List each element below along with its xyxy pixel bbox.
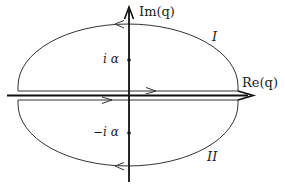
real-axis-label: Re(q) [242,76,278,89]
imaginary-axis-label: Im(q) [139,5,175,18]
region-label-upper: I [212,30,217,43]
upper-contour [18,24,238,91]
tick-i-alpha [127,58,131,62]
contour-diagram: Im(q) Re(q) i α −i α I II [0,0,285,192]
real-axis [7,91,253,100]
tick-minus-i-alpha [127,131,131,135]
tick-label-minus-i-alpha: −i α [93,126,119,138]
region-label-lower: II [207,150,217,163]
tick-label-i-alpha: i α [103,53,119,65]
diagram-graphics [0,0,285,192]
